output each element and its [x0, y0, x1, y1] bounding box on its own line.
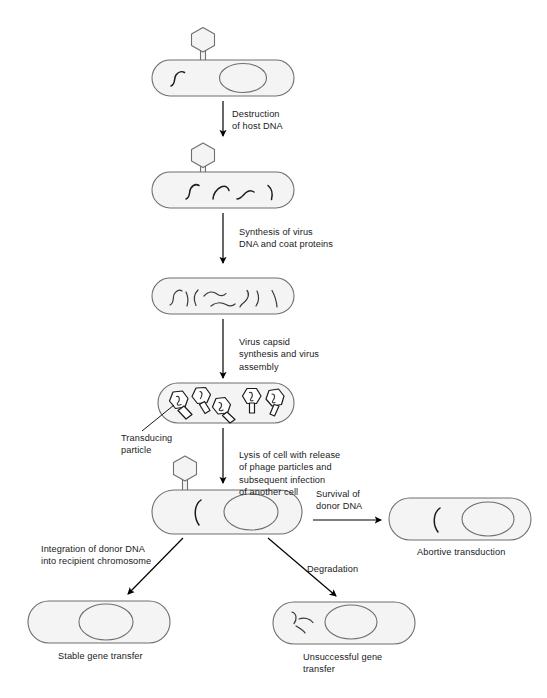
label-stable-gene-transfer: Stable gene transfer [58, 650, 143, 662]
stable-cell [28, 601, 170, 643]
transduction-diagram: Destruction of host DNA Synthesis of vir… [0, 0, 547, 698]
step-1-cell-group [152, 28, 294, 97]
annotation-survival-of-donor-dna: Survival of donor DNA [316, 488, 362, 513]
host-cell-1 [152, 60, 294, 96]
step-3-cell-group [152, 278, 294, 314]
phage-icon-step2 [192, 143, 215, 175]
label-unsuccessful-gene-transfer: Unsuccessful gene transfer [303, 651, 382, 676]
caption-destruction-of-host-dna: Destruction of host DNA [232, 108, 283, 133]
abortive-cell [389, 498, 531, 540]
phage-icon-step1 [192, 28, 215, 64]
caption-synthesis-of-virus-dna: Synthesis of virus DNA and coat proteins [239, 226, 333, 251]
label-abortive-transduction: Abortive transduction [417, 546, 505, 558]
annotation-degradation: Degradation [307, 563, 358, 575]
caption-virus-capsid-synthesis: Virus capsid synthesis and virus assembl… [239, 336, 319, 373]
step-2-cell-group [152, 143, 294, 208]
phage-icon-step5 [174, 456, 197, 492]
stable-cell-group [28, 601, 170, 643]
step-4-cell-group [158, 383, 294, 423]
abortive-cell-group [389, 498, 531, 540]
unsuccessful-cell-group [273, 602, 415, 644]
host-cell-2 [152, 172, 294, 208]
annotation-integration-of-donor-dna: Integration of donor DNA into recipient … [41, 543, 151, 568]
annotation-transducing-particle: Transducing particle [121, 432, 172, 457]
